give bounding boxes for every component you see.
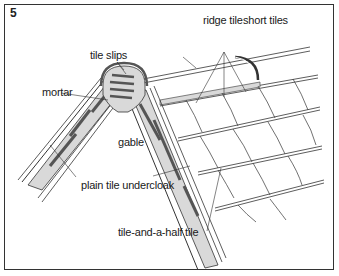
label-tile-slips: tile slips	[90, 49, 127, 61]
ridge-base-band	[160, 82, 260, 105]
label-tile-and-a-half-tile: tile-and-a-half tile	[118, 226, 198, 238]
label-ridge-tile: ridge tile	[203, 14, 243, 26]
right-gable-slope	[126, 86, 226, 270]
label-plain-tile-undercloak: plain tile undercloak	[81, 179, 174, 191]
tile-joints	[186, 79, 316, 222]
label-short-tiles: short tiles	[243, 14, 288, 26]
label-gable: gable	[118, 136, 144, 148]
label-mortar: mortar	[42, 86, 73, 98]
